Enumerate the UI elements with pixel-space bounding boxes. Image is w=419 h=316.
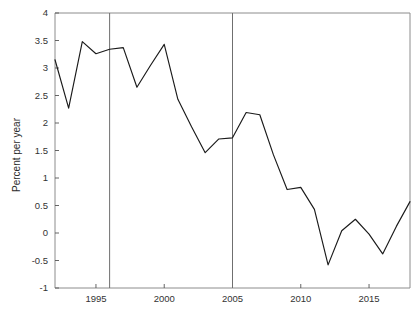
y-tick-label: -0.5 xyxy=(32,255,48,266)
y-tick-label: 2.5 xyxy=(35,90,48,101)
y-tick-label: 1 xyxy=(43,172,48,183)
y-tick-label: 1.5 xyxy=(35,145,48,156)
chart-background xyxy=(0,0,419,316)
y-tick-label: 0 xyxy=(43,227,48,238)
chart-container: -1-0.500.511.522.533.54 1995200020052010… xyxy=(0,0,419,316)
x-tick-label: 2015 xyxy=(358,293,379,304)
line-chart: -1-0.500.511.522.533.54 1995200020052010… xyxy=(0,0,419,316)
y-tick-label: 3 xyxy=(43,62,48,73)
y-tick-label: 0.5 xyxy=(35,200,48,211)
y-tick-label: -1 xyxy=(40,282,48,293)
x-tick-label: 2000 xyxy=(154,293,175,304)
x-tick-label: 2010 xyxy=(290,293,311,304)
y-tick-label: 4 xyxy=(43,7,48,18)
x-tick-label: 1995 xyxy=(85,293,106,304)
x-tick-label: 2005 xyxy=(222,293,243,304)
y-tick-label: 2 xyxy=(43,117,48,128)
y-axis-label: Percent per year xyxy=(11,117,22,192)
y-tick-label: 3.5 xyxy=(35,35,48,46)
